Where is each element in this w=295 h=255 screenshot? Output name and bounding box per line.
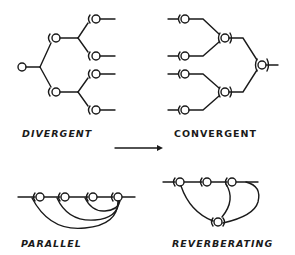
convergent-label: CONVERGENT xyxy=(174,128,257,139)
neuron-icon xyxy=(92,106,100,114)
reverberating-label: REVERBERATING xyxy=(172,238,273,249)
convergent-circuit xyxy=(168,15,278,114)
neuron-icon xyxy=(92,52,100,60)
neuron-icon xyxy=(258,61,266,69)
neuron-icon xyxy=(61,193,69,201)
divergent-circuit xyxy=(18,15,115,114)
neuron-icon xyxy=(52,88,60,96)
neuron-icon xyxy=(221,88,229,96)
neuron-icon xyxy=(89,193,97,201)
neuron-icon xyxy=(221,34,229,42)
arrow-icon xyxy=(115,145,163,151)
neuron-icon xyxy=(181,15,189,23)
divergent-label: DIVERGENT xyxy=(22,128,92,139)
neuron-icon xyxy=(181,70,189,78)
neuron-icon xyxy=(214,218,222,226)
neuron-icon xyxy=(92,15,100,23)
neuron-icon xyxy=(176,178,184,186)
parallel-circuit xyxy=(18,193,135,228)
neuron-icon xyxy=(36,193,44,201)
neuron-icon xyxy=(92,70,100,78)
neuron-icon xyxy=(18,63,26,71)
neuron-icon xyxy=(228,178,236,186)
neuron-icon xyxy=(114,193,122,201)
neuron-icon xyxy=(181,106,189,114)
neuron-icon xyxy=(52,34,60,42)
reverberating-circuit xyxy=(163,178,259,226)
neuron-icon xyxy=(181,52,189,60)
parallel-label: PARALLEL xyxy=(21,238,82,249)
neuron-icon xyxy=(203,178,211,186)
